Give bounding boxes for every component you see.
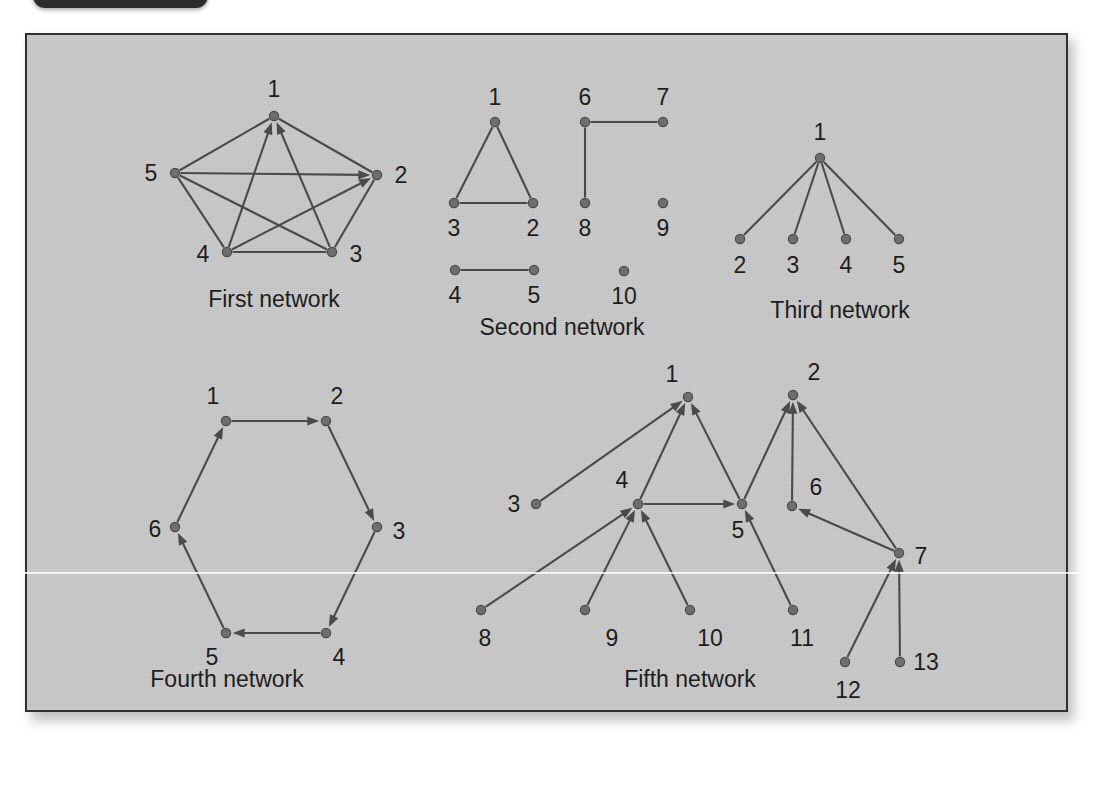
node-label-fifth-network-11: 11 bbox=[790, 627, 814, 650]
node-label-first-network-5: 5 bbox=[145, 162, 158, 185]
node-label-second-network-6: 6 bbox=[579, 86, 592, 109]
node-label-fifth-network-9: 9 bbox=[606, 627, 619, 650]
node-label-second-network-2: 2 bbox=[527, 217, 540, 240]
node-label-third-network-2: 2 bbox=[734, 254, 747, 277]
caption-second-network: Second network bbox=[480, 316, 645, 339]
node-label-fifth-network-12: 12 bbox=[835, 679, 861, 702]
node-label-fourth-network-3: 3 bbox=[393, 520, 406, 543]
node-label-fifth-network-10: 10 bbox=[697, 627, 723, 650]
caption-fourth-network: Fourth network bbox=[150, 668, 303, 691]
node-label-first-network-3: 3 bbox=[350, 243, 363, 266]
node-label-fifth-network-4: 4 bbox=[616, 469, 629, 492]
node-label-fourth-network-4: 4 bbox=[333, 646, 346, 669]
caption-first-network: First network bbox=[208, 288, 340, 311]
node-label-fifth-network-13: 13 bbox=[913, 651, 939, 674]
node-label-fifth-network-5: 5 bbox=[732, 519, 745, 542]
node-label-fourth-network-1: 1 bbox=[207, 385, 220, 408]
caption-fifth-network: Fifth network bbox=[624, 668, 756, 691]
node-label-fifth-network-2: 2 bbox=[808, 361, 821, 384]
node-label-fourth-network-2: 2 bbox=[331, 385, 344, 408]
corner-tab bbox=[33, 0, 208, 8]
figure-plate bbox=[25, 33, 1068, 712]
node-label-first-network-1: 1 bbox=[268, 78, 281, 101]
node-label-first-network-2: 2 bbox=[395, 164, 408, 187]
node-label-second-network-3: 3 bbox=[448, 217, 461, 240]
node-label-second-network-5: 5 bbox=[528, 284, 541, 307]
node-label-third-network-5: 5 bbox=[893, 254, 906, 277]
node-label-third-network-1: 1 bbox=[814, 121, 827, 144]
node-label-fifth-network-1: 1 bbox=[666, 363, 679, 386]
node-label-third-network-3: 3 bbox=[787, 254, 800, 277]
node-label-fifth-network-3: 3 bbox=[508, 493, 521, 516]
node-label-second-network-8: 8 bbox=[579, 217, 592, 240]
node-label-second-network-4: 4 bbox=[449, 284, 462, 307]
node-label-second-network-10: 10 bbox=[611, 285, 637, 308]
node-label-fourth-network-6: 6 bbox=[149, 518, 162, 541]
node-label-fifth-network-6: 6 bbox=[810, 476, 823, 499]
node-label-second-network-9: 9 bbox=[657, 217, 670, 240]
node-label-fifth-network-8: 8 bbox=[479, 627, 492, 650]
figure-root: 12345First network13267894510Second netw… bbox=[0, 0, 1101, 787]
caption-third-network: Third network bbox=[770, 299, 909, 322]
node-label-fifth-network-7: 7 bbox=[915, 545, 928, 568]
node-label-second-network-7: 7 bbox=[657, 86, 670, 109]
node-label-second-network-1: 1 bbox=[489, 86, 502, 109]
node-label-first-network-4: 4 bbox=[197, 243, 210, 266]
node-label-third-network-4: 4 bbox=[840, 254, 853, 277]
